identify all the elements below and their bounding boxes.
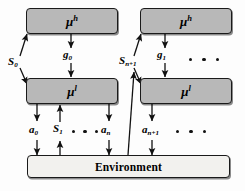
node-low-level-policy-right-label: μl <box>181 85 191 98</box>
edge-environment-to-state-n-plus-1 <box>128 72 134 155</box>
edge-label-state-1: S1 <box>53 123 63 134</box>
diagram-canvas: μh μh μl μl Environment S0 g0 a0 S1 an S… <box>0 0 245 191</box>
node-high-level-policy-left-label: μh <box>66 15 78 28</box>
node-high-level-policy-left[interactable]: μh <box>26 8 118 34</box>
node-low-level-policy-left-label: μl <box>67 85 77 98</box>
ellipsis-bottom-right <box>176 130 206 133</box>
node-low-level-policy-right[interactable]: μl <box>140 78 232 104</box>
edge-label-action-0: a0 <box>29 124 38 135</box>
edge-label-goal-1: g1 <box>157 49 166 60</box>
node-high-level-policy-right-label: μh <box>180 15 192 28</box>
edge-state-n1-to-high-right <box>134 34 141 56</box>
edge-label-state-0: S0 <box>8 56 18 67</box>
edge-label-action-n: an <box>101 124 110 135</box>
node-environment[interactable]: Environment <box>27 155 230 178</box>
edge-label-state-n-plus-1: Sn+1 <box>119 55 137 66</box>
node-high-level-policy-right[interactable]: μh <box>140 8 232 34</box>
edge-state0-to-high-left <box>20 34 27 56</box>
node-low-level-policy-left[interactable]: μl <box>26 78 118 104</box>
edge-label-goal-0: g0 <box>63 49 72 60</box>
ellipsis-bottom-left <box>72 130 98 133</box>
edge-label-action-n-plus-1: an+1 <box>142 124 159 135</box>
node-environment-label: Environment <box>95 161 162 173</box>
ellipsis-top-right <box>189 58 219 61</box>
